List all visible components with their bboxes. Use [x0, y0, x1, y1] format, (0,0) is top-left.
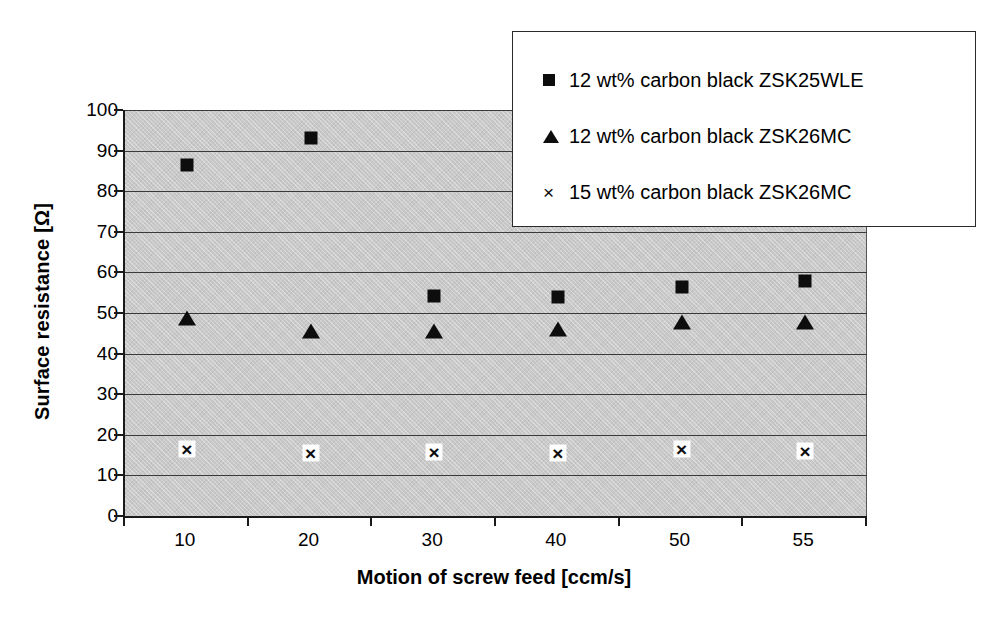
y-axis-tick-label: 30 [58, 383, 118, 405]
gridline [125, 313, 867, 314]
legend-item-label: 12 wt% carbon black ZSK26MC [569, 125, 851, 148]
y-axis-tick-label: 80 [58, 180, 118, 202]
y-axis-tick-mark [114, 231, 123, 233]
y-axis-tick-mark [114, 515, 123, 517]
x-axis-tick-label: 20 [264, 529, 354, 551]
x-axis-tick-label: 10 [140, 529, 230, 551]
data-point-square [799, 274, 812, 287]
y-axis-tick-label: 60 [58, 261, 118, 283]
legend-marker-cross-icon: × [543, 183, 569, 202]
y-axis-title: Surface resistance [Ω] [31, 102, 54, 522]
y-axis-tick-label: 90 [58, 140, 118, 162]
chart-legend: 12 wt% carbon black ZSK25WLE12 wt% carbo… [512, 31, 976, 227]
data-point-square [675, 281, 688, 294]
data-point-triangle [302, 324, 320, 339]
x-axis-tick-mark [618, 516, 620, 526]
data-point-square [180, 158, 193, 171]
legend-item: 12 wt% carbon black ZSK25WLE [543, 52, 975, 108]
x-axis-tick-mark [865, 516, 867, 526]
chart-figure: Surface resistance [Ω] 01020304050607080… [0, 0, 995, 619]
data-point-square [304, 132, 317, 145]
gridline [125, 354, 867, 355]
gridline [125, 232, 867, 233]
legend-marker-square-icon [543, 74, 569, 86]
y-axis-tick-mark [114, 474, 123, 476]
x-axis-tick-mark [123, 516, 125, 526]
legend-marker-triangle-icon [543, 130, 569, 143]
data-point-triangle [549, 322, 567, 337]
y-axis-tick-mark [114, 271, 123, 273]
y-axis-tick-label: 100 [58, 99, 118, 121]
data-point-square [428, 289, 441, 302]
y-axis-tick-label: 70 [58, 221, 118, 243]
y-axis-tick-mark [114, 190, 123, 192]
data-point-cross: × [673, 441, 690, 458]
x-axis-tick-label: 30 [387, 529, 477, 551]
data-point-cross: × [302, 445, 319, 462]
x-axis-tick-mark [247, 516, 249, 526]
y-axis-tick-mark [114, 312, 123, 314]
data-point-cross: × [549, 445, 566, 462]
y-axis-tick-mark [114, 393, 123, 395]
y-axis-tick-label: 40 [58, 343, 118, 365]
y-axis-tick-label: 20 [58, 424, 118, 446]
gridline [125, 475, 867, 476]
y-axis-tick-label: 10 [58, 464, 118, 486]
data-point-cross: × [426, 444, 443, 461]
y-axis-tick-label: 0 [58, 505, 118, 527]
y-axis-tick-label: 50 [58, 302, 118, 324]
data-point-cross: × [797, 443, 814, 460]
gridline [125, 272, 867, 273]
x-axis-tick-label: 55 [758, 529, 848, 551]
x-axis-tick-mark [370, 516, 372, 526]
data-point-square [551, 290, 564, 303]
data-point-triangle [796, 314, 814, 329]
legend-item: 12 wt% carbon black ZSK26MC [543, 108, 975, 164]
x-axis-tick-mark [741, 516, 743, 526]
x-axis-tick-mark [494, 516, 496, 526]
legend-item: ×15 wt% carbon black ZSK26MC [543, 164, 975, 220]
gridline [125, 435, 867, 436]
data-point-triangle [673, 314, 691, 329]
x-axis-tick-label: 40 [511, 529, 601, 551]
legend-item-label: 12 wt% carbon black ZSK25WLE [569, 69, 864, 92]
y-axis-tick-mark [114, 109, 123, 111]
gridline [125, 394, 867, 395]
data-point-triangle [178, 310, 196, 325]
x-axis-title: Motion of screw feed [ccm/s] [123, 566, 865, 589]
y-axis-tick-mark [114, 353, 123, 355]
data-point-cross: × [178, 440, 195, 457]
data-point-triangle [425, 323, 443, 338]
y-axis-tick-mark [114, 150, 123, 152]
y-axis-tick-mark [114, 434, 123, 436]
x-axis-tick-label: 50 [635, 529, 725, 551]
legend-item-label: 15 wt% carbon black ZSK26MC [569, 181, 851, 204]
